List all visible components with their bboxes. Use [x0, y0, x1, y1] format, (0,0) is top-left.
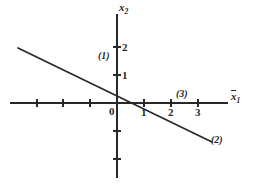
x-axis-label-base: x: [231, 91, 237, 102]
annotation-line-1: (1): [98, 51, 110, 61]
annotation-line-3: (3): [176, 89, 188, 99]
x-tick-label-1: 1: [141, 107, 147, 118]
origin-label: 0: [109, 106, 115, 117]
annotation-line-2: (2): [211, 135, 223, 145]
x-axis-label: x1: [231, 91, 240, 105]
y-tick-label-1: 1: [122, 70, 128, 81]
graph-canvas: [0, 0, 253, 184]
y-axis-label-subscript: 2: [125, 7, 129, 16]
y-axis-label: x2: [119, 2, 128, 16]
x-tick-label-2: 2: [168, 107, 174, 118]
line-graph-figure: 0 1 2 3 1 2 x2 x1 (1) (3) (2): [0, 0, 253, 184]
y-tick-label-2: 2: [122, 42, 128, 53]
x-tick-label-3: 3: [195, 107, 201, 118]
x-axis-label-subscript: 1: [237, 96, 241, 105]
